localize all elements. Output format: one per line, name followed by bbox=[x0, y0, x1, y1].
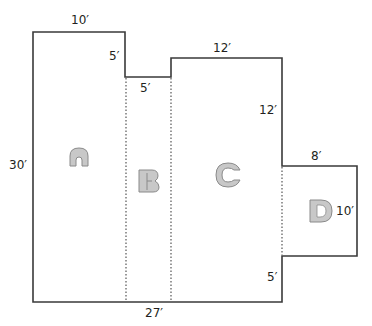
dimension-notch-width: 5′ bbox=[140, 82, 150, 94]
floor-plan-outline bbox=[33, 32, 357, 302]
section-d-letter-icon bbox=[310, 200, 332, 222]
dimension-notch-depth: 5′ bbox=[109, 50, 119, 62]
section-a-letter-icon bbox=[70, 148, 88, 166]
dimension-left-height: 30′ bbox=[9, 159, 27, 171]
dimension-bottom-width: 27′ bbox=[145, 307, 163, 319]
dimension-wing-height: 10′ bbox=[336, 205, 354, 217]
dimension-wing-width: 8′ bbox=[311, 150, 321, 162]
section-c-letter-icon bbox=[216, 163, 240, 187]
dimension-right-upper-height: 12′ bbox=[259, 104, 277, 116]
dimension-top-right-width: 12′ bbox=[213, 42, 231, 54]
dimension-top-left-width: 10′ bbox=[71, 14, 89, 26]
dimension-right-lower-height: 5′ bbox=[267, 271, 277, 283]
section-b-letter-icon bbox=[139, 170, 159, 192]
floor-plan-diagram bbox=[0, 0, 372, 326]
